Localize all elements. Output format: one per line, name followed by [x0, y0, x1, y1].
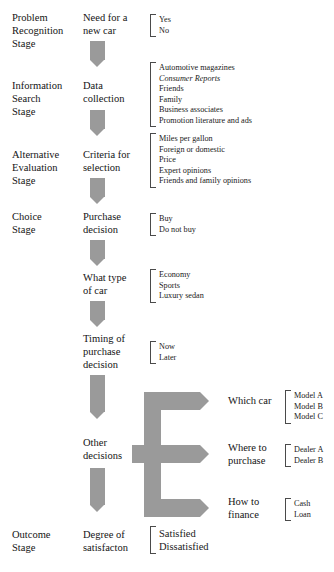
- fan-out-prong-which-car: [144, 392, 200, 410]
- option-item: Do not buy: [159, 225, 196, 236]
- node-label-other-decisions: Other decisions: [83, 436, 122, 462]
- node-label-what-type-of-car: What type of car: [83, 271, 126, 297]
- option-item: Friends and family opinions: [159, 176, 251, 187]
- flow-arrow-down: [90, 301, 105, 320]
- option-item: Price: [159, 155, 251, 166]
- options-which-car: Model A Model B Model C: [285, 390, 323, 424]
- option-item: Satisfied: [159, 527, 209, 540]
- option-item: Later: [159, 353, 176, 364]
- option-list: Automotive magazines Consumer Reports Fr…: [159, 62, 252, 127]
- stage-label-outcome: Outcome Stage: [12, 528, 51, 554]
- option-list: Model A Model B Model C: [294, 390, 323, 424]
- option-item: Economy: [159, 270, 204, 281]
- option-item: Now: [159, 342, 176, 353]
- option-list: Dealer A Dealer B: [294, 444, 323, 467]
- option-item: Sports: [159, 281, 204, 292]
- fan-out-arrow: [144, 392, 239, 517]
- option-item: Luxury sedan: [159, 291, 204, 302]
- option-item: Automotive magazines: [159, 63, 252, 74]
- bracket: [285, 444, 291, 467]
- option-item: Promotion literature and ads: [159, 116, 252, 127]
- bracket: [150, 213, 156, 236]
- branch-label-where-to-purchase: Where to purchase: [228, 441, 267, 467]
- bracket: [150, 341, 156, 364]
- option-item: Consumer Reports: [159, 74, 252, 85]
- option-item: Model C: [294, 412, 323, 423]
- branch-label-how-to-finance: How to finance: [228, 495, 259, 521]
- option-item: Model B: [294, 402, 323, 413]
- option-item: Miles per gallon: [159, 134, 251, 145]
- option-item: Family: [159, 95, 252, 106]
- flow-arrow-down: [90, 110, 105, 129]
- stage-label-problem-recognition: Problem Recognition Stage: [12, 11, 63, 51]
- option-item: Foreign or domestic: [159, 145, 251, 156]
- option-item: Yes: [159, 15, 171, 26]
- flow-arrow-down: [90, 375, 105, 412]
- option-list: Now Later: [159, 341, 176, 364]
- options-how-to-finance: Cash Loan: [285, 498, 311, 521]
- flow-arrow-down: [90, 240, 105, 259]
- bracket: [150, 526, 156, 554]
- stage-label-information-search: Information Search Stage: [12, 79, 62, 119]
- branch-label-which-car: Which car: [228, 394, 271, 407]
- option-list: Cash Loan: [294, 498, 311, 521]
- option-item: Dissatisfied: [159, 540, 209, 553]
- node-label-need-for-new-car: Need for a new car: [83, 11, 127, 37]
- options-need-for-new-car: Yes No: [150, 14, 171, 37]
- option-list: Buy Do not buy: [159, 213, 196, 236]
- fan-out-prong-where-to-purchase: [132, 445, 200, 463]
- bracket: [150, 14, 156, 37]
- option-item: Friends: [159, 84, 252, 95]
- options-purchase-decision: Buy Do not buy: [150, 213, 196, 236]
- options-criteria-for-selection: Miles per gallon Foreign or domestic Pri…: [150, 133, 251, 188]
- option-item: Buy: [159, 214, 196, 225]
- option-item: Model A: [294, 391, 323, 402]
- options-timing-of-purchase: Now Later: [150, 341, 176, 364]
- flow-arrow-down: [90, 178, 105, 197]
- flow-arrow-down: [90, 468, 105, 505]
- bracket: [285, 390, 291, 424]
- option-item: Loan: [294, 510, 311, 521]
- stage-label-choice: Choice Stage: [12, 210, 42, 236]
- option-list: Satisfied Dissatisfied: [159, 526, 209, 554]
- node-label-data-collection: Data collection: [83, 79, 124, 105]
- bracket: [150, 62, 156, 127]
- options-what-type-of-car: Economy Sports Luxury sedan: [150, 269, 204, 303]
- node-label-degree-of-satisfaction: Degree of satisfacton: [83, 528, 128, 554]
- option-item: Cash: [294, 499, 311, 510]
- option-list: Yes No: [159, 14, 171, 37]
- option-item: Dealer A: [294, 445, 323, 456]
- option-item: Business associates: [159, 105, 252, 116]
- option-item: No: [159, 26, 171, 37]
- fan-out-prong-how-to-finance: [144, 499, 200, 517]
- bracket: [150, 133, 156, 188]
- options-data-collection: Automotive magazines Consumer Reports Fr…: [150, 62, 252, 127]
- option-item: Dealer B: [294, 456, 323, 467]
- option-list: Economy Sports Luxury sedan: [159, 269, 204, 303]
- bracket: [150, 269, 156, 303]
- options-where-to-purchase: Dealer A Dealer B: [285, 444, 323, 467]
- node-label-purchase-decision: Purchase decision: [83, 210, 121, 236]
- stage-label-alternative-evaluation: Alternative Evaluation Stage: [12, 148, 59, 188]
- options-degree-of-satisfaction: Satisfied Dissatisfied: [150, 526, 209, 554]
- option-list: Miles per gallon Foreign or domestic Pri…: [159, 133, 251, 188]
- node-label-criteria-for-selection: Criteria for selection: [83, 148, 130, 174]
- node-label-timing-of-purchase-decision: Timing of purchase decision: [83, 332, 125, 372]
- option-item: Expert opinions: [159, 166, 251, 177]
- bracket: [285, 498, 291, 521]
- flow-arrow-down: [90, 41, 105, 60]
